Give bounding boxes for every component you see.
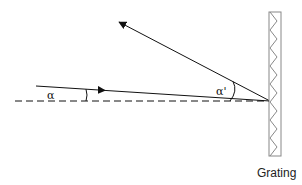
incident-angle-label: α — [47, 89, 55, 102]
incident-angle-arc — [86, 89, 87, 101]
grating-diagram: α α' Grating — [0, 0, 302, 185]
grating — [269, 12, 281, 156]
diffracted-angle-label: α' — [216, 85, 226, 98]
diffracted-ray — [119, 22, 270, 101]
grating-label: Grating — [257, 166, 296, 180]
grating-outline — [269, 12, 281, 156]
incident-ray-end — [103, 90, 270, 101]
